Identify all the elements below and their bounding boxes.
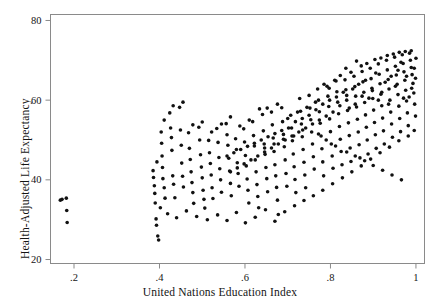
data-point (367, 96, 371, 100)
data-point (216, 141, 220, 145)
data-point (365, 138, 369, 142)
data-point (406, 111, 410, 115)
data-point (318, 118, 322, 122)
data-point (252, 134, 256, 138)
data-point (403, 50, 407, 54)
data-point (380, 90, 384, 94)
data-point (253, 141, 257, 145)
data-point (399, 61, 403, 65)
y-axis-title: Health-Adjusted Life Expectancy (19, 98, 31, 259)
data-point (412, 129, 416, 133)
data-point (366, 152, 370, 156)
data-point (300, 117, 304, 121)
data-point (242, 127, 246, 131)
data-point (324, 114, 328, 118)
data-point (253, 215, 257, 219)
data-point (345, 98, 349, 102)
data-point (168, 111, 172, 115)
data-point (371, 89, 375, 93)
data-point (373, 58, 377, 62)
data-point (373, 121, 377, 125)
data-point (153, 192, 157, 196)
data-point (235, 161, 239, 165)
data-point (188, 158, 192, 162)
data-point (276, 198, 280, 202)
data-point (321, 102, 325, 106)
data-point (406, 134, 410, 138)
data-point (238, 124, 242, 128)
data-point (277, 213, 281, 217)
data-point (224, 122, 228, 126)
data-point (155, 160, 159, 164)
data-point (405, 74, 409, 78)
data-point (209, 162, 213, 166)
data-point (412, 66, 416, 70)
data-point (156, 234, 160, 238)
data-point (334, 144, 338, 148)
data-point (300, 135, 304, 139)
data-point (360, 70, 364, 74)
data-point (190, 181, 194, 185)
data-point (253, 158, 257, 162)
data-point (399, 130, 403, 134)
data-point (410, 86, 414, 90)
data-point (229, 182, 233, 186)
data-point (330, 142, 334, 146)
data-point (381, 168, 385, 172)
data-point (188, 147, 192, 151)
data-point (374, 71, 378, 75)
data-point (303, 173, 307, 177)
data-point (331, 182, 335, 186)
data-point (264, 208, 268, 212)
data-point (357, 82, 361, 86)
data-point (289, 114, 293, 118)
data-point (405, 99, 409, 103)
data-point (65, 209, 69, 213)
data-point (396, 68, 400, 72)
data-point (396, 93, 400, 97)
data-point (187, 131, 191, 135)
data-point (163, 196, 167, 200)
data-point (363, 101, 367, 105)
data-point (365, 62, 369, 66)
data-point (317, 98, 321, 102)
data-point (389, 110, 393, 114)
data-point (314, 108, 318, 112)
data-point (294, 120, 298, 124)
x-axis-title: United Nations Education Index (0, 286, 440, 298)
data-point (162, 186, 166, 190)
data-point (246, 188, 250, 192)
data-point (171, 104, 175, 108)
data-point (173, 196, 177, 200)
data-point (197, 125, 201, 129)
y-tick-label: 20 (31, 254, 42, 265)
data-point (347, 106, 351, 110)
data-point (178, 106, 182, 110)
data-point (404, 88, 408, 92)
x-axis-ticks: .2.4.6.81 (70, 264, 419, 283)
data-point (198, 138, 202, 142)
data-point (206, 218, 210, 222)
data-point (302, 199, 306, 203)
data-point (283, 210, 287, 214)
data-point (347, 121, 351, 125)
data-point (272, 142, 276, 146)
data-point (175, 216, 179, 220)
data-point (166, 212, 170, 216)
data-point (195, 215, 199, 219)
data-point (327, 86, 331, 90)
data-point (388, 145, 392, 149)
data-point (378, 151, 382, 155)
data-point (312, 155, 316, 159)
data-point (298, 97, 302, 101)
data-point (386, 78, 390, 82)
data-point (210, 130, 214, 134)
data-point (339, 74, 343, 78)
data-point (182, 185, 186, 189)
data-point (155, 223, 159, 227)
data-point (321, 188, 325, 192)
data-point (358, 156, 362, 160)
data-point (259, 138, 263, 142)
data-point (225, 133, 229, 137)
data-point (363, 159, 367, 163)
